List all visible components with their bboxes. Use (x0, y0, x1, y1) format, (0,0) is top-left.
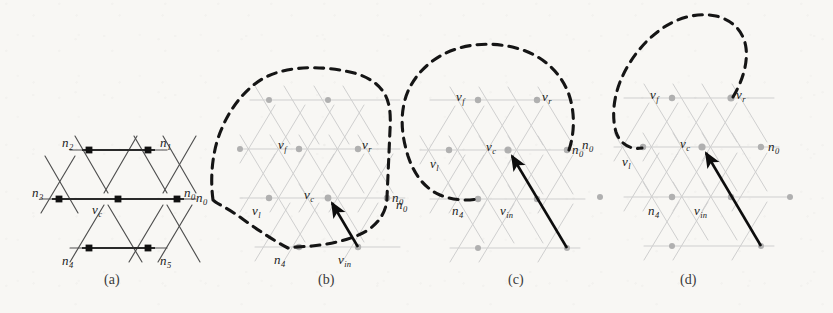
label-vr: vr (542, 90, 551, 103)
node-grid (325, 97, 331, 103)
node-grid (597, 194, 603, 200)
label-vl: vl (252, 204, 260, 217)
label-n0: n0 (184, 186, 195, 199)
label-n3: n3 (32, 186, 43, 199)
node-n0 (758, 144, 764, 150)
node-vc (504, 146, 511, 153)
panel-caption-c: (c) (508, 273, 524, 287)
panel-d-lattice (614, 84, 789, 260)
label-vc: vc (486, 140, 496, 153)
node-vr (534, 97, 540, 103)
node-vl (266, 195, 272, 201)
figure-canvas (0, 0, 833, 313)
node-grid (787, 194, 793, 200)
node-vl (446, 147, 452, 153)
panel-b-region-boundary (212, 68, 391, 248)
panel-caption-a: (a) (104, 273, 120, 287)
label-n0-right: n0 (768, 140, 779, 153)
panel-b-lattice (240, 86, 405, 261)
label-n0-left: n0 (396, 198, 407, 211)
node-grid (237, 146, 243, 152)
node-n0 (174, 196, 181, 203)
node-grid (669, 243, 675, 249)
panel-caption-d: (d) (680, 273, 696, 287)
label-vf: vf (456, 90, 464, 103)
label-n4: n4 (452, 204, 463, 217)
node-n1 (145, 147, 152, 154)
node-n4 (669, 194, 675, 200)
label-n4: n4 (62, 254, 73, 267)
node-vf (475, 97, 481, 103)
label-n0-left: n0 (582, 138, 593, 151)
node-n3 (56, 196, 63, 203)
node-vr (355, 146, 361, 152)
node-n4 (86, 245, 93, 252)
label-n0-left: n0 (196, 191, 207, 204)
panel-d-nodes (597, 94, 793, 249)
panel-c-region-boundary (402, 44, 573, 200)
node-vc (115, 196, 122, 203)
label-vr: vr (736, 88, 745, 101)
figure-panel-group: n2 n1 n3 vc n0 n4 n5 vf vr n0 vl vc n0 n… (0, 0, 833, 313)
label-vf: vf (650, 88, 658, 101)
label-vl: vl (430, 157, 438, 170)
node-vf (296, 146, 302, 152)
label-vc: vc (680, 137, 690, 150)
label-n5: n5 (160, 254, 171, 267)
node-grid (266, 97, 272, 103)
node-vc (698, 143, 705, 150)
node-n2 (86, 147, 93, 154)
panel-caption-b: (b) (318, 273, 334, 287)
node-grid (475, 245, 481, 251)
label-vin: vin (338, 253, 351, 266)
node-vc (325, 195, 332, 202)
label-vin: vin (694, 204, 707, 217)
label-vc: vc (92, 203, 102, 216)
panel-b-nodes (237, 97, 390, 250)
label-vr: vr (362, 138, 371, 151)
panel-c-nodes (446, 97, 570, 251)
label-n4: n4 (274, 253, 285, 266)
node-vf (669, 95, 675, 101)
label-n1: n1 (160, 136, 171, 149)
node-n5 (145, 245, 152, 252)
node-n4 (475, 196, 481, 202)
label-vl: vl (622, 155, 630, 168)
label-n4: n4 (648, 204, 659, 217)
label-n2: n2 (62, 136, 73, 149)
label-vf: vf (278, 138, 286, 151)
label-vc: vc (304, 188, 314, 201)
label-vin: vin (500, 204, 513, 217)
